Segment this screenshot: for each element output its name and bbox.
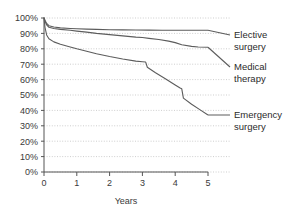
y-axis-ticks: 0%10%20%30%40%50%60%70%80%90%100%: [15, 13, 44, 177]
x-axis-title: Years: [115, 196, 138, 206]
survival-curve-chart: 0%10%20%30%40%50%60%70%80%90%100% 012345…: [0, 0, 299, 213]
y-tick-label: 30%: [20, 121, 38, 131]
x-tick-label: 4: [173, 178, 178, 188]
data-curves: [44, 18, 208, 115]
x-tick-label: 0: [41, 178, 46, 188]
x-tick-label: 1: [74, 178, 79, 188]
y-tick-label: 100%: [15, 13, 38, 23]
x-tick-label: 5: [205, 178, 210, 188]
legend-label: surgery: [234, 121, 266, 132]
y-tick-label: 0%: [25, 167, 38, 177]
y-tick-label: 80%: [20, 44, 38, 54]
legend-label: Elective: [234, 29, 267, 40]
x-tick-label: 2: [107, 178, 112, 188]
y-tick-label: 90%: [20, 29, 38, 39]
curve-medical-therapy: [44, 18, 208, 47]
y-tick-label: 20%: [20, 137, 38, 147]
legend-leader-line: [208, 30, 230, 35]
legend-label: Medical: [234, 61, 267, 72]
y-tick-label: 70%: [20, 60, 38, 70]
y-tick-label: 60%: [20, 75, 38, 85]
x-axis-ticks: 012345: [41, 172, 210, 188]
y-tick-label: 50%: [20, 90, 38, 100]
chart-legend: ElectivesurgeryMedicaltherapyEmergencysu…: [208, 29, 282, 132]
legend-label: Emergency: [234, 109, 282, 120]
chart-screenshot: 0%10%20%30%40%50%60%70%80%90%100% 012345…: [0, 0, 299, 213]
gridlines: [44, 18, 231, 172]
legend-label: surgery: [234, 41, 266, 52]
legend-label: therapy: [234, 73, 266, 84]
y-tick-label: 40%: [20, 106, 38, 116]
y-tick-label: 10%: [20, 152, 38, 162]
curve-elective-surgery: [44, 18, 208, 30]
x-tick-label: 3: [140, 178, 145, 188]
curve-emergency-surgery: [44, 18, 208, 115]
